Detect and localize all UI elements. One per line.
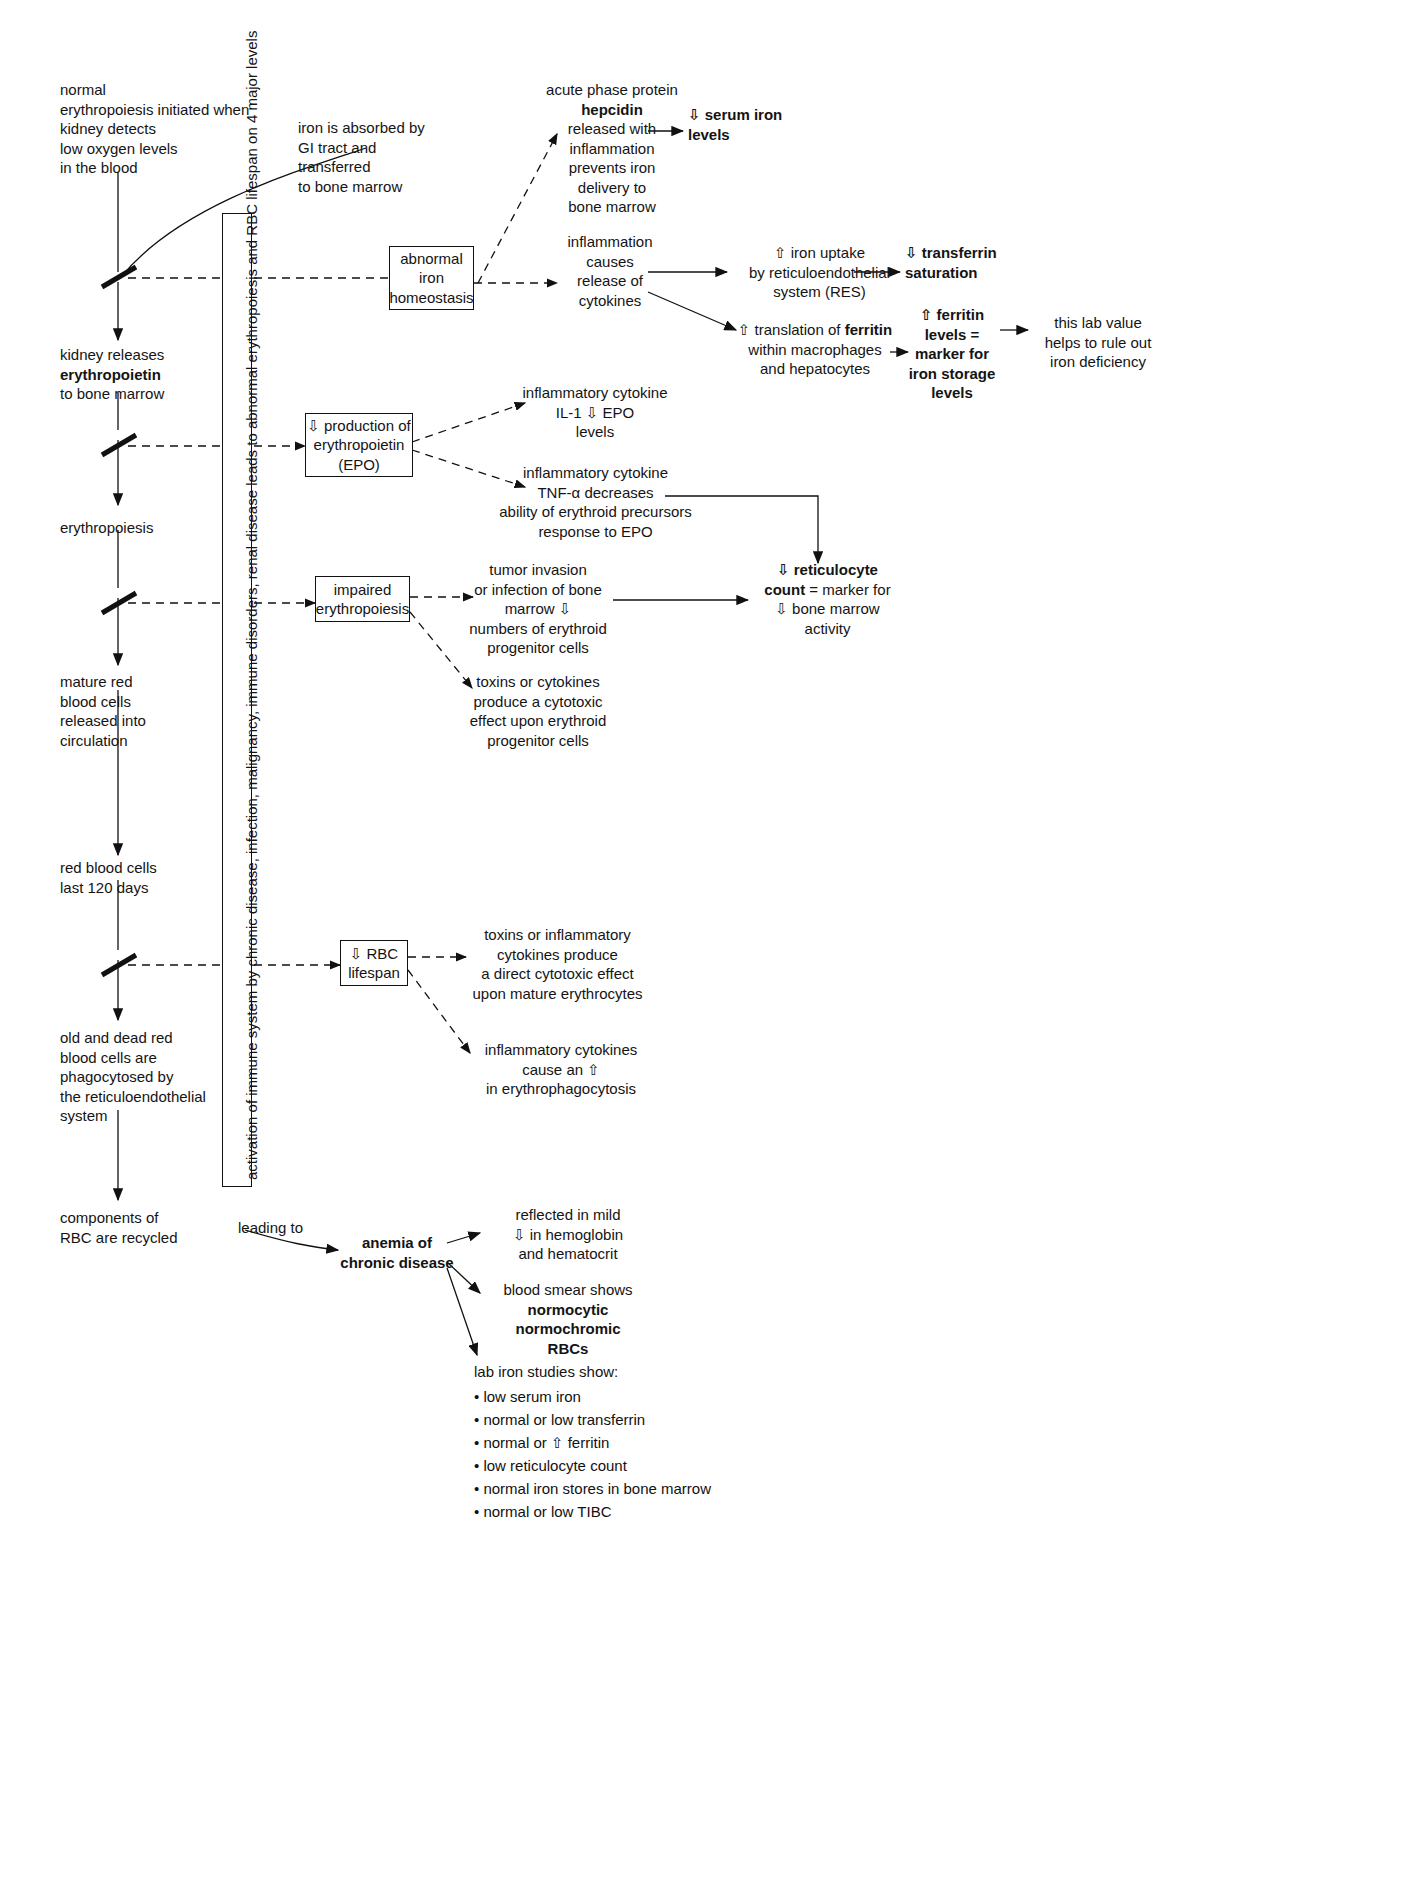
node-reticulocyte-count: ⇩ reticulocyte count = marker for ⇩ bone…: [745, 560, 910, 638]
box-abnormal-iron-homeostasis-label: abnormal iron homeostasis: [389, 249, 473, 308]
diagram-canvas: normal erythropoiesis initiated when kid…: [0, 0, 1425, 1896]
node-inflammation-cytokines: inflammation causes release of cytokines: [545, 232, 675, 310]
list-item: • normal or ⇧ ferritin: [474, 1431, 814, 1454]
node-ferritin-translation: ⇧ translation of ferritin within macroph…: [730, 320, 900, 379]
node-anemia-of-chronic-disease: anemia of chronic disease: [332, 1233, 462, 1272]
list-item: • low serum iron: [474, 1385, 814, 1408]
list-item: • low reticulocyte count: [474, 1454, 814, 1477]
list-item: • normal iron stores in bone marrow: [474, 1477, 814, 1500]
node-blood-smear: blood smear shows normocytic normochromi…: [478, 1280, 658, 1358]
node-tnf-alpha: inflammatory cytokine TNF-α decreases ab…: [458, 463, 733, 541]
box-impaired-erythropoiesis[interactable]: impaired erythropoiesis: [315, 576, 410, 622]
box-abnormal-iron-homeostasis[interactable]: abnormal iron homeostasis: [389, 246, 474, 310]
node-lab-studies-heading: lab iron studies show:: [474, 1362, 804, 1382]
node-iron-absorbed: iron is absorbed by GI tract and transfe…: [298, 118, 518, 196]
node-ferritin-levels-marker: ⇧ ferritin levels = marker for iron stor…: [898, 305, 1006, 403]
node-il1-epo: inflammatory cytokine IL-1 ⇩ EPO levels: [500, 383, 690, 442]
node-transferrin-saturation: ⇩ transferrin saturation: [905, 243, 1065, 282]
connector-layer: [0, 0, 1425, 1896]
box-epo-production[interactable]: ⇩ production of erythropoietin (EPO): [305, 413, 413, 477]
node-hepcidin: acute phase protein hepcidin released wi…: [528, 80, 696, 217]
node-normal-erythropoiesis: normal erythropoiesis initiated when kid…: [60, 80, 300, 178]
vertical-label-text: activation of immune system by chronic d…: [243, 31, 260, 1180]
box-rbc-lifespan-label: ⇩ RBC lifespan: [348, 944, 400, 983]
node-toxins-mature-erythrocytes: toxins or inflammatory cytokines produce…: [450, 925, 665, 1003]
lab-studies-list: • low serum iron • normal or low transfe…: [474, 1385, 814, 1523]
list-item: • normal or low TIBC: [474, 1500, 814, 1523]
node-mild-hgb-hct: reflected in mild ⇩ in hemoglobin and he…: [478, 1205, 658, 1264]
list-item: • normal or low transferrin: [474, 1408, 814, 1431]
node-toxins-progenitor: toxins or cytokines produce a cytotoxic …: [448, 672, 628, 750]
box-rbc-lifespan[interactable]: ⇩ RBC lifespan: [340, 940, 408, 986]
box-epo-production-label: ⇩ production of erythropoietin (EPO): [307, 416, 410, 475]
node-iron-uptake-res: ⇧ iron uptake by reticuloendothelial sys…: [722, 243, 917, 302]
node-lab-value-note: this lab value helps to rule out iron de…: [1018, 313, 1178, 372]
node-tumor-invasion: tumor invasion or infection of bone marr…: [448, 560, 628, 658]
node-erythrophagocytosis: inflammatory cytokines cause an ⇧ in ery…: [462, 1040, 660, 1099]
node-serum-iron-levels: ⇩ serum iron levels: [688, 105, 848, 144]
box-impaired-erythropoiesis-label: impaired erythropoiesis: [316, 580, 409, 619]
